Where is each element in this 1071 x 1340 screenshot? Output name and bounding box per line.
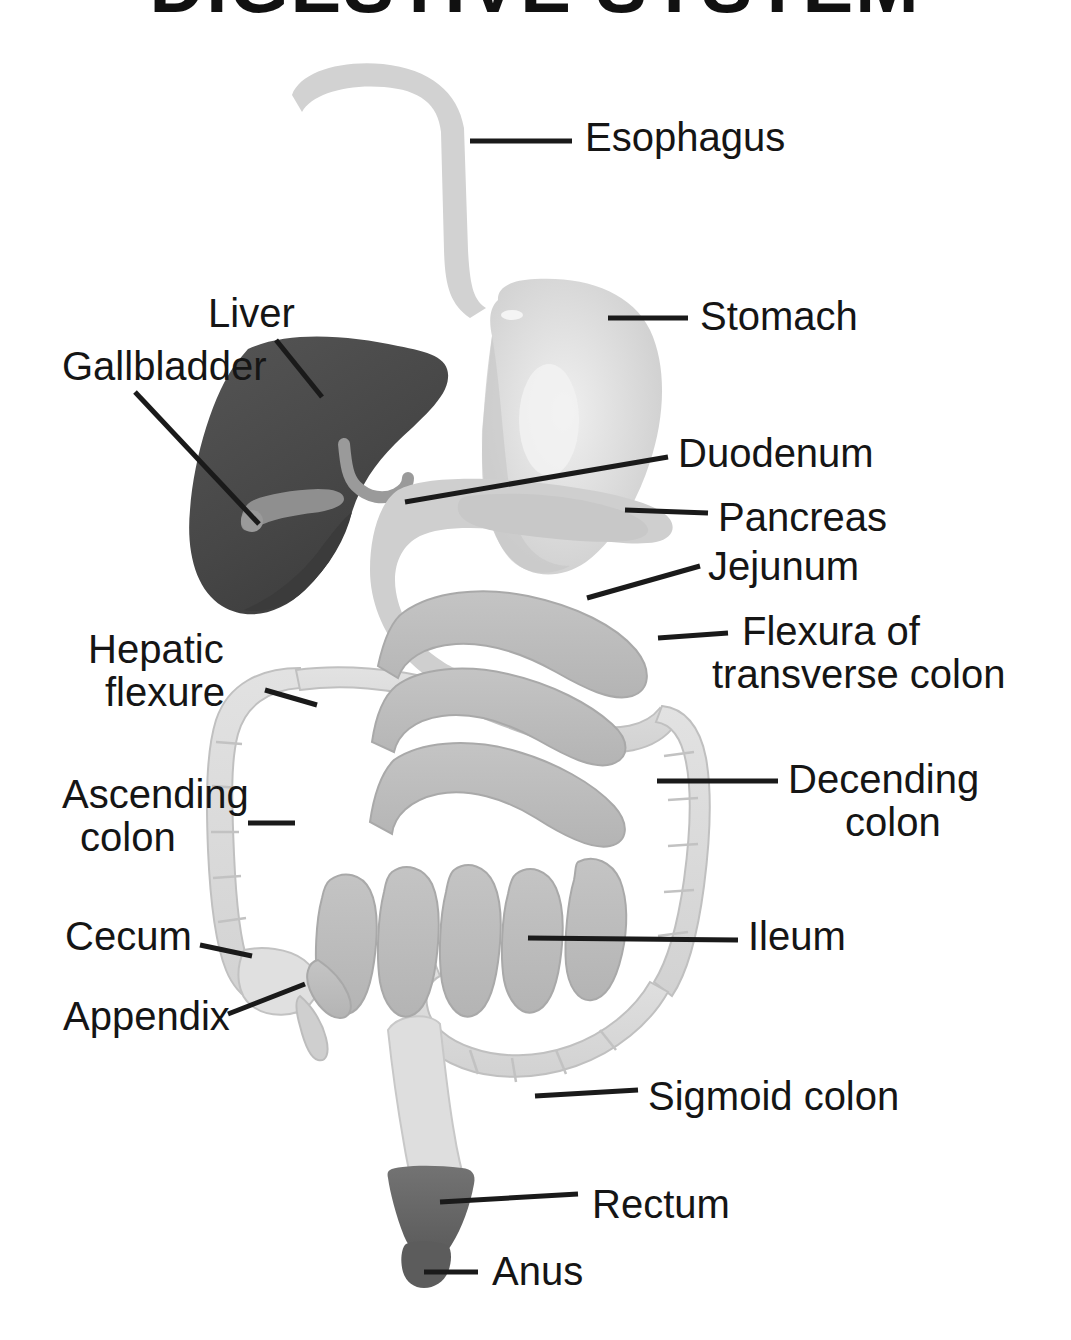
label-cecum: Cecum [65,914,192,958]
stomach-highlight [519,364,579,476]
label-decending-colon-line2: colon [845,800,941,844]
label-sigmoid-colon: Sigmoid colon [648,1074,899,1118]
label-ascending-colon-line2: colon [80,815,176,859]
label-liver: Liver [208,291,295,335]
digestive-system-illustration: DIGESTIVE SYSTEM [0,0,1071,1340]
small-intestine-group [307,591,647,1018]
organ-anus [401,1241,451,1288]
figure-title: DIGESTIVE SYSTEM [149,0,920,28]
label-pancreas: Pancreas [718,495,887,539]
ileum-coil-5 [565,859,626,1000]
leader-line-pancreas [625,510,708,513]
label-esophagus: Esophagus [585,115,785,159]
anus-shape [401,1241,451,1288]
label-flexura-line1: Flexura of [742,609,921,653]
label-stomach: Stomach [700,294,858,338]
label-flexura-line2: transverse colon [712,652,1005,696]
ileum-coil-2 [378,867,439,1017]
leader-line-jejunum [587,566,700,598]
leader-line-flexura [658,633,728,638]
label-jejunum: Jejunum [708,544,859,588]
label-appendix: Appendix [63,994,230,1038]
organs-group [189,63,709,1288]
label-gallbladder: Gallbladder [62,344,267,388]
label-duodenum: Duodenum [678,431,874,475]
esophagus-shape [292,63,486,318]
leader-line-sigmoid [535,1090,638,1096]
figure-title-text: DIGESTIVE SYSTEM [149,0,920,28]
decending-colon-shape [654,706,710,996]
label-anus: Anus [492,1249,583,1293]
ileum-coil-3 [440,865,501,1016]
label-hepatic-flexure-line1: Hepatic [88,627,224,671]
label-ileum: Ileum [748,914,846,958]
leader-line-ileum [528,938,738,940]
label-decending-colon-line1: Decending [788,757,979,801]
label-hepatic-flexure-line2: flexure [105,670,225,714]
stomach-cardia-mark [501,310,523,320]
organ-esophagus [292,63,486,318]
label-rectum: Rectum [592,1182,730,1226]
ileum-coil-4 [502,869,563,1012]
leader-line-hepatic [265,690,317,705]
label-ascending-colon-line1: Ascending [62,772,249,816]
digestive-system-figure: DIGESTIVE SYSTEM [0,0,1071,1340]
